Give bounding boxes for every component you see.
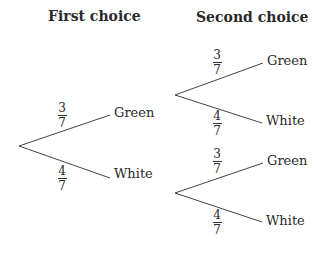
prob-second-b-green: 37 bbox=[211, 148, 223, 175]
outcome-second-a-white: White bbox=[266, 113, 305, 128]
heading-first-choice: First choice bbox=[48, 8, 141, 24]
prob-second-a-green: 37 bbox=[211, 49, 223, 76]
outcome-second-b-green: Green bbox=[267, 153, 307, 168]
heading-second-choice: Second choice bbox=[196, 9, 309, 25]
outcome-second-b-white: White bbox=[266, 213, 305, 228]
prob-second-a-white: 47 bbox=[211, 110, 223, 137]
outcome-first-green: Green bbox=[114, 105, 154, 120]
outcome-first-white: White bbox=[114, 166, 153, 181]
prob-first-white: 47 bbox=[56, 165, 68, 192]
prob-first-green: 37 bbox=[56, 102, 68, 129]
prob-second-b-white: 47 bbox=[211, 209, 223, 236]
outcome-second-a-green: Green bbox=[267, 53, 307, 68]
